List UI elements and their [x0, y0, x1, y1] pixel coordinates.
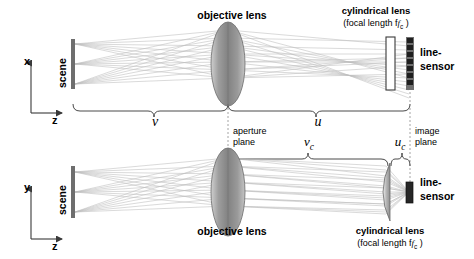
top-cylindrical-lens-label: cylindrical lens — [316, 6, 436, 17]
top-view-group — [31, 22, 414, 117]
top-cylindrical-lens — [386, 37, 395, 90]
top-axis-z-label: z — [52, 114, 58, 126]
image-plane-label-2: plane — [415, 137, 437, 147]
aperture-plane-label-2: plane — [233, 137, 255, 147]
focal-text: (focal length f — [343, 18, 397, 28]
top-objective-lens — [211, 22, 245, 106]
bottom-axis-z-label: z — [52, 240, 58, 252]
bottom-line-sensor-label-2: sensor — [420, 191, 454, 203]
bottom-objective-lens — [211, 148, 245, 236]
top-line-sensor-label-1: line- — [420, 47, 442, 59]
distance-uc-label: uc — [385, 135, 415, 152]
top-scene-label: scene — [57, 42, 69, 88]
bottom-cylindrical-focal-note: (focal length ffc ) — [330, 238, 450, 250]
distance-u-label: u — [301, 114, 335, 130]
top-line-sensor-label-2: sensor — [420, 61, 454, 73]
distance-v-label: v — [138, 114, 172, 130]
top-scene-bar — [71, 39, 75, 89]
top-line-sensor — [406, 37, 414, 90]
distance-vc-label: vc — [292, 135, 326, 152]
brace-uc — [391, 153, 410, 166]
top-objective-lens-label: objective lens — [176, 10, 288, 22]
bottom-line-sensor — [406, 182, 413, 203]
bottom-scene-label: scene — [57, 169, 69, 215]
vc-subscript: c — [310, 142, 314, 152]
focal-close-2: ) — [417, 238, 423, 248]
bottom-scene-bar — [71, 166, 75, 218]
image-plane-label-1: image — [415, 126, 440, 136]
top-cylindrical-focal-note: (focal length ffc ) — [316, 18, 436, 30]
bottom-axis-y-label: y — [24, 181, 30, 193]
bottom-objective-lens-label: objective lens — [176, 226, 288, 238]
uc-subscript: c — [401, 142, 405, 152]
aperture-plane-label-1: aperture — [233, 126, 267, 136]
focal-text-2: (focal length f — [357, 238, 411, 248]
bottom-line-sensor-label-1: line- — [420, 177, 442, 189]
focal-close: ) — [403, 18, 409, 28]
bottom-cylindrical-lens-label: cylindrical lens — [330, 226, 450, 237]
diagram-canvas: objective lens cylindrical lens (focal l… — [0, 0, 474, 259]
top-axis-x-label: x — [24, 55, 30, 67]
